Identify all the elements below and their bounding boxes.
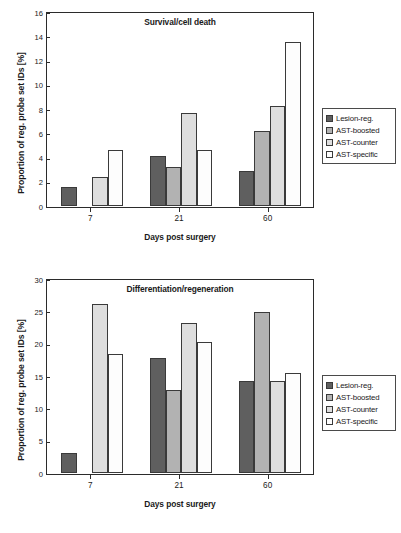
x-axis-ticks-top: 72160 [46, 208, 314, 222]
x-axis-tick-label: 7 [88, 481, 93, 490]
x-axis-tick [179, 208, 180, 212]
legend-item-ast-boosted: AST-boosted [326, 391, 392, 403]
bar-group-container-top [48, 14, 312, 206]
y-axis-tick-label: 8 [39, 106, 43, 115]
y-axis-tick-label: 10 [35, 81, 43, 90]
y-axis-tick: 4 [46, 159, 50, 160]
legend-item-ast-specific: AST-specific [326, 148, 392, 160]
y-axis-tick-label: 2 [39, 178, 43, 187]
legend-swatch-icon-ast-specific [326, 418, 333, 425]
bar-21-ast-counter [181, 113, 197, 206]
bar-60-lesion-reg [239, 171, 255, 206]
legend-item-ast-counter: AST-counter [326, 403, 392, 415]
legend-label-lesion-reg: Lesion-reg. [336, 381, 373, 390]
y-axis-tick: 8 [46, 110, 50, 111]
y-axis-tick: 16 [46, 13, 50, 14]
x-axis-tick-label: 60 [263, 214, 272, 223]
bar-7-ast-specific [108, 150, 124, 206]
y-axis-tick-label: 6 [39, 130, 43, 139]
x-axis-ticks-bottom: 72160 [46, 475, 314, 489]
bar-7-lesion-reg [61, 187, 77, 206]
legend-label-lesion-reg: Lesion-reg. [336, 114, 373, 123]
bar-60-ast-boosted [254, 312, 270, 473]
y-axis-tick: 5 [46, 442, 50, 443]
x-axis-tick [268, 475, 269, 479]
bar-21-ast-boosted [166, 390, 182, 473]
y-axis-tick: 2 [46, 183, 50, 184]
bar-60-ast-specific [285, 373, 301, 473]
legend-swatch-icon-ast-boosted [326, 394, 333, 401]
x-axis-tick-label: 21 [174, 481, 183, 490]
figure-two-panel-bar-charts: Proportion of reg. probe set IDs [%] Sur… [0, 0, 401, 533]
bar-60-ast-counter [270, 381, 286, 473]
y-axis-title-bottom: Proportion of reg. probe set IDs [%] [16, 295, 26, 485]
y-axis-tick: 6 [46, 134, 50, 135]
x-axis-tick-label: 21 [174, 214, 183, 223]
legend-label-ast-boosted: AST-boosted [336, 126, 379, 135]
bar-60-ast-boosted [254, 131, 270, 206]
legend-swatch-icon-ast-counter [326, 139, 333, 146]
legend-swatch-icon-ast-counter [326, 406, 333, 413]
plot-area-bottom: Differentiation/regeneration [46, 279, 314, 475]
y-axis-tick-label: 15 [35, 373, 43, 382]
legend-swatch-icon-ast-boosted [326, 127, 333, 134]
y-axis-tick-label: 4 [39, 154, 43, 163]
y-axis-tick-label: 5 [39, 437, 43, 446]
bar-21-ast-specific [197, 150, 213, 206]
y-axis-tick-label: 0 [39, 470, 43, 479]
y-axis-tick: 25 [46, 312, 50, 313]
y-axis-tick: 30 [46, 280, 50, 281]
x-axis-tick-label: 60 [263, 481, 272, 490]
x-axis-tick [90, 475, 91, 479]
bar-21-ast-boosted [166, 167, 182, 206]
y-axis-tick-label: 0 [39, 203, 43, 212]
bar-7-ast-counter [92, 304, 108, 473]
y-axis-tick: 12 [46, 62, 50, 63]
x-axis-tick [90, 208, 91, 212]
y-axis-tick: 15 [46, 377, 50, 378]
plot-area-top: Survival/cell death [46, 12, 314, 208]
legend-swatch-icon-lesion-reg [326, 382, 333, 389]
legend-label-ast-specific: AST-specific [336, 150, 378, 159]
y-axis-tick: 10 [46, 409, 50, 410]
y-axis-tick-label: 20 [35, 340, 43, 349]
bar-21-lesion-reg [150, 156, 166, 206]
x-axis-tick [179, 475, 180, 479]
bar-60-ast-specific [285, 42, 301, 206]
bar-21-lesion-reg [150, 358, 166, 473]
legend-item-lesion-reg: Lesion-reg. [326, 112, 392, 124]
y-axis-tick-label: 16 [35, 9, 43, 18]
panel-differentiation-regeneration: Proportion of reg. probe set IDs [%] Dif… [0, 267, 401, 533]
bar-7-ast-specific [108, 354, 124, 473]
y-axis-title-top: Proportion of reg. probe set IDs [%] [16, 28, 26, 218]
bar-21-ast-counter [181, 323, 197, 473]
y-axis-tick-label: 30 [35, 276, 43, 285]
legend-swatch-icon-lesion-reg [326, 115, 333, 122]
bar-21-ast-specific [197, 342, 213, 473]
y-axis-tick-label: 12 [35, 57, 43, 66]
legend-label-ast-specific: AST-specific [336, 417, 378, 426]
bar-7-lesion-reg [61, 453, 77, 473]
y-axis-tick: 14 [46, 37, 50, 38]
y-axis-tick-label: 14 [35, 33, 43, 42]
x-axis-tick-label: 7 [88, 214, 93, 223]
x-axis-tick [268, 208, 269, 212]
x-axis-title-top: Days post surgery [46, 232, 314, 242]
legend-item-ast-boosted: AST-boosted [326, 124, 392, 136]
legend-item-lesion-reg: Lesion-reg. [326, 379, 392, 391]
legend-bottom: Lesion-reg. AST-boosted AST-counter AST-… [322, 375, 396, 431]
bar-7-ast-counter [92, 177, 108, 206]
legend-label-ast-boosted: AST-boosted [336, 393, 379, 402]
y-axis-tick: 20 [46, 345, 50, 346]
bar-60-lesion-reg [239, 381, 255, 473]
bar-group-container-bottom [48, 281, 312, 473]
legend-label-ast-counter: AST-counter [336, 138, 378, 147]
legend-label-ast-counter: AST-counter [336, 405, 378, 414]
panel-survival-cell-death: Proportion of reg. probe set IDs [%] Sur… [0, 0, 401, 266]
legend-item-ast-specific: AST-specific [326, 415, 392, 427]
y-axis-tick: 10 [46, 86, 50, 87]
x-axis-title-bottom: Days post surgery [46, 499, 314, 509]
legend-item-ast-counter: AST-counter [326, 136, 392, 148]
bar-60-ast-counter [270, 106, 286, 206]
legend-top: Lesion-reg. AST-boosted AST-counter AST-… [322, 108, 396, 164]
